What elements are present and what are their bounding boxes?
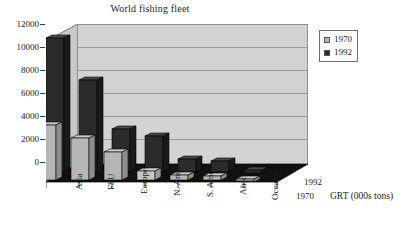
- category-label-oceania: Oceania: [271, 171, 280, 200]
- legend-label: 1992: [334, 48, 352, 57]
- legend: 1970 1992: [319, 30, 358, 62]
- legend-item-1992[interactable]: 1992: [324, 47, 352, 58]
- chart-figure: World fishing fleet 12000 10000 8000 600…: [0, 0, 418, 252]
- category-label-asia: Asia: [75, 174, 84, 191]
- legend-swatch-icon: [324, 37, 330, 43]
- category-label-europe: Europe: [140, 168, 149, 194]
- legend-swatch-icon: [324, 50, 330, 56]
- depth-axis-title: GRT (000s tons): [330, 191, 393, 201]
- depth-tick-1970: 1970: [296, 192, 314, 201]
- legend-item-1970[interactable]: 1970: [324, 34, 352, 45]
- category-label-s-amer: S. Amer.: [206, 166, 215, 197]
- category-label-n-amer: N. Amer.: [173, 163, 182, 196]
- category-label-africa: Africa: [239, 172, 248, 195]
- depth-tick-1992: 1992: [304, 178, 322, 187]
- category-label-fsu: FSU: [107, 173, 116, 190]
- legend-label: 1970: [334, 35, 352, 44]
